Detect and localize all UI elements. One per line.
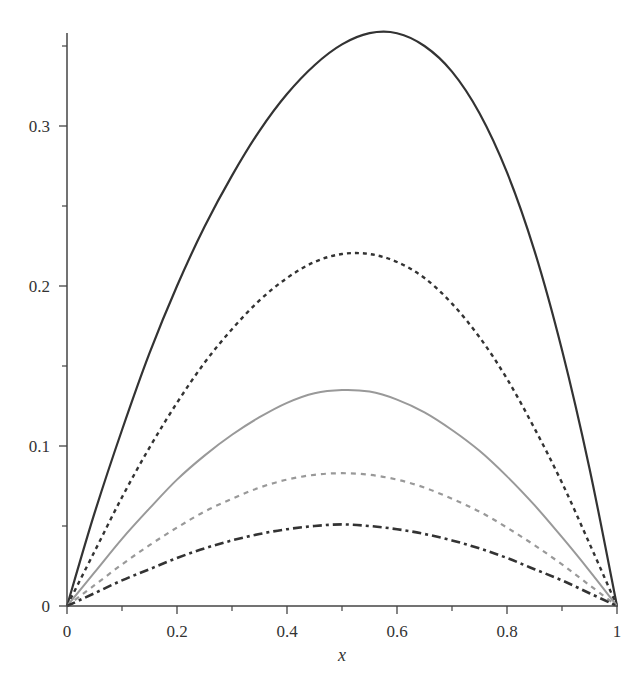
x-tick-label: 0.4 bbox=[276, 622, 298, 641]
y-tick-label: 0.2 bbox=[29, 277, 50, 296]
curve-3-line bbox=[67, 390, 617, 606]
x-ticks: 00.20.40.60.81 bbox=[63, 606, 622, 641]
y-tick-label: 0.1 bbox=[29, 437, 50, 456]
x-tick-label: 0 bbox=[63, 622, 72, 641]
x-tick-label: 1 bbox=[613, 622, 622, 641]
x-tick-label: 0.8 bbox=[496, 622, 517, 641]
curve-5-line bbox=[67, 524, 617, 606]
curve-1-line bbox=[67, 32, 617, 606]
y-tick-label: 0 bbox=[42, 597, 51, 616]
x-axis-label: x bbox=[337, 645, 346, 665]
curve-2-line bbox=[67, 253, 617, 606]
axes bbox=[67, 33, 618, 606]
plot-lines bbox=[67, 32, 617, 606]
line-chart: 00.20.40.60.81 00.10.20.3 x bbox=[0, 0, 641, 684]
y-ticks: 00.10.20.3 bbox=[29, 46, 67, 616]
y-tick-label: 0.3 bbox=[29, 117, 50, 136]
x-tick-label: 0.6 bbox=[386, 622, 407, 641]
x-tick-label: 0.2 bbox=[166, 622, 187, 641]
curve-4-line bbox=[67, 473, 617, 606]
